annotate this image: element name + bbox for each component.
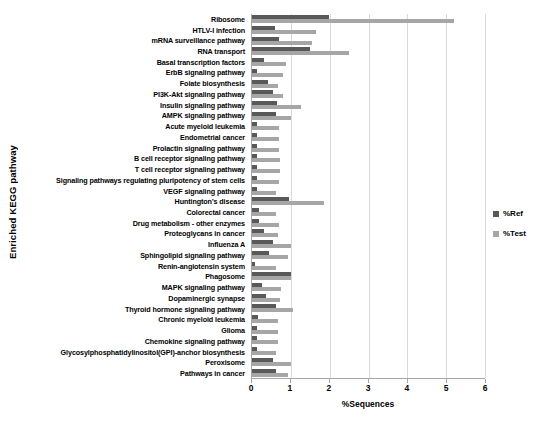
category-label-row: Pathways in cancer <box>22 368 248 379</box>
category-label: Endometrial cancer <box>180 134 245 141</box>
legend-swatch-icon <box>493 211 499 217</box>
bar-test <box>252 340 278 344</box>
category-label-row: MAPK signaling pathway <box>22 282 248 293</box>
gridline <box>485 14 486 378</box>
legend-label: %Test <box>503 229 526 238</box>
bar-group <box>252 78 485 89</box>
category-label-row: Renin-angiotensin system <box>22 261 248 272</box>
bar-group <box>252 357 485 368</box>
tick-label: 1 <box>280 383 300 393</box>
legend-item[interactable]: %Test <box>493 229 553 238</box>
category-label: Basal transcription factors <box>157 59 245 66</box>
bar-test <box>252 223 279 227</box>
category-label-row: Signaling pathways regulating pluripoten… <box>22 175 248 186</box>
y-axis-title: Enriched KEGG pathway <box>2 0 22 405</box>
bar-test <box>252 180 279 184</box>
category-label-row: Colorectal cancer <box>22 207 248 218</box>
bar-group <box>252 228 485 239</box>
bar-group <box>252 132 485 143</box>
category-label-row: VEGF signaling pathway <box>22 186 248 197</box>
legend-label: %Ref <box>503 209 523 218</box>
bar-test <box>252 276 291 280</box>
bar-test <box>252 126 279 130</box>
category-label: Colorectal cancer <box>186 209 245 216</box>
bar-group <box>252 239 485 250</box>
bar-test <box>252 148 279 152</box>
bar-test <box>252 191 276 195</box>
category-label-row: Sphingolipid signaling pathway <box>22 250 248 261</box>
bar-group <box>252 196 485 207</box>
bar-group <box>252 142 485 153</box>
category-label: AMPK signaling pathway <box>162 112 245 119</box>
bar-test <box>252 298 280 302</box>
bar-group <box>252 164 485 175</box>
bar-group <box>252 271 485 282</box>
bar-group <box>252 260 485 271</box>
category-label: MAPK signaling pathway <box>162 284 245 291</box>
bar-test <box>252 287 281 291</box>
kegg-pathway-bar-chart: Enriched KEGG pathway RibosomeHTLV-I inf… <box>0 0 557 439</box>
bar-test <box>252 62 286 66</box>
bar-test <box>252 244 291 248</box>
category-label: VEGF signaling pathway <box>163 188 245 195</box>
category-label-row: Proteoglycans in cancer <box>22 229 248 240</box>
tick-label: 4 <box>397 383 417 393</box>
bar-group <box>252 207 485 218</box>
bar-group <box>252 282 485 293</box>
category-label: B cell receptor signaling pathway <box>134 155 245 162</box>
bar-group <box>252 89 485 100</box>
category-label-row: T cell receptor signaling pathway <box>22 164 248 175</box>
category-label-row: Dopaminergic synapse <box>22 293 248 304</box>
bar-group <box>252 100 485 111</box>
bar-test <box>252 266 276 270</box>
category-label-row: B cell receptor signaling pathway <box>22 154 248 165</box>
category-label-row: Phagosome <box>22 272 248 283</box>
category-label-row: Ribosome <box>22 14 248 25</box>
tick-label: 0 <box>241 383 261 393</box>
bar-group <box>252 25 485 36</box>
bar-test <box>252 94 283 98</box>
category-label-row: AMPK signaling pathway <box>22 111 248 122</box>
bar-test <box>252 201 324 205</box>
bar-group <box>252 185 485 196</box>
category-label-row: Prolactin signaling pathway <box>22 143 248 154</box>
category-label: Proteoglycans in cancer <box>164 230 245 237</box>
category-label-row: Huntington's disease <box>22 196 248 207</box>
category-label: Phagosome <box>205 273 245 280</box>
category-label: Glycosylphosphatidylinositol(GPI)-anchor… <box>61 349 245 356</box>
plot-area <box>251 14 485 379</box>
bar-test <box>252 255 288 259</box>
bar-test <box>252 362 291 366</box>
x-axis-ticks: 0123456 <box>251 379 485 395</box>
category-label: Chemokine signaling pathway <box>145 338 245 345</box>
bar-group <box>252 175 485 186</box>
bar-group <box>252 249 485 260</box>
bar-test <box>252 308 293 312</box>
category-label: Ribosome <box>211 16 245 23</box>
category-label: Pathways in cancer <box>180 370 245 377</box>
category-label: Sphingolipid signaling pathway <box>140 252 245 259</box>
category-label: Huntington's disease <box>175 198 245 205</box>
bar-group <box>252 14 485 25</box>
legend-item[interactable]: %Ref <box>493 209 553 218</box>
chart-legend: %Ref%Test <box>493 209 553 249</box>
bar-group <box>252 314 485 325</box>
bar-group <box>252 153 485 164</box>
legend-swatch-icon <box>493 231 499 237</box>
bar-group <box>252 110 485 121</box>
bar-test <box>252 373 288 377</box>
bar-test <box>252 19 454 23</box>
category-label: Dopaminergic synapse <box>168 295 245 302</box>
bar-test <box>252 351 276 355</box>
bar-test <box>252 51 349 55</box>
tick-label: 6 <box>475 383 495 393</box>
category-label: Signaling pathways regulating pluripoten… <box>56 177 245 184</box>
bar-group <box>252 346 485 357</box>
bar-group <box>252 68 485 79</box>
category-label-row: Insulin signaling pathway <box>22 100 248 111</box>
bar-test <box>252 84 278 88</box>
category-label-row: mRNA surveillance pathway <box>22 35 248 46</box>
category-label-row: Glycosylphosphatidylinositol(GPI)-anchor… <box>22 347 248 358</box>
category-label: PI3K-Akt signaling pathway <box>153 91 245 98</box>
bar-group <box>252 46 485 57</box>
